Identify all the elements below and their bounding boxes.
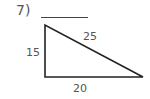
side-label-left: 15 xyxy=(26,46,40,59)
side-label-bottom: 20 xyxy=(73,82,87,95)
side-label-hypotenuse: 25 xyxy=(83,30,97,43)
